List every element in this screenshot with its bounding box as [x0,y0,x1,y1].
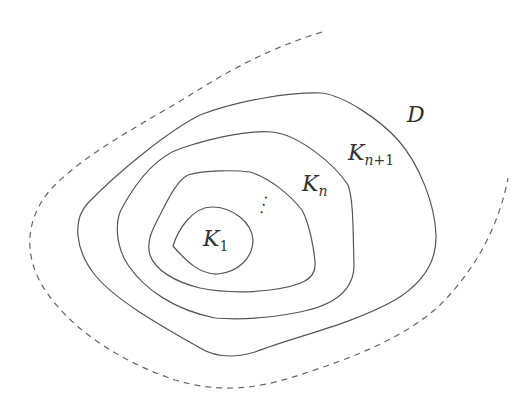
label-K-1-base: K [203,226,219,251]
label-K-n-plus-1-sub-rest: +1 [373,152,394,168]
label-K-1: K1 [203,228,228,253]
label-K-1-sub: 1 [219,238,228,254]
label-K-n: Kn [302,173,327,198]
label-D-text: D [407,102,425,127]
label-K-n-sub: n [318,183,327,199]
label-D: D [407,104,425,126]
label-K-n-plus-1-base: K [348,140,364,165]
label-K-n-base: K [302,171,318,196]
label-K-n-plus-1: Kn+1 [348,142,394,167]
set-K-n [117,132,354,319]
intermediate-set [149,171,315,292]
